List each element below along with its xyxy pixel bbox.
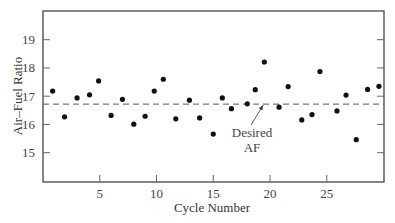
data-points [50,59,382,142]
data-point [220,95,225,100]
data-point [262,59,267,64]
data-point [317,69,322,74]
x-tick-label: 25 [320,186,333,201]
data-point [197,115,202,120]
data-point [152,89,157,94]
x-tick-label: 20 [264,186,277,201]
data-point [187,98,192,103]
data-point [120,97,125,102]
data-point [334,108,339,113]
data-point [211,131,216,136]
data-point [245,101,250,106]
arrowhead-icon [259,105,263,110]
annotation-line-2: AF [244,140,261,155]
data-point [87,92,92,97]
air-fuel-ratio-chart: 1516171819 510152025 Desired AF Cycle Nu… [0,0,395,223]
x-axis-label: Cycle Number [174,200,251,215]
desired-af-annotation: Desired AF [232,105,273,155]
data-point [309,112,314,117]
data-point [50,89,55,94]
data-point [173,116,178,121]
plot-frame [43,11,384,182]
data-point [109,113,114,118]
data-point [365,87,370,92]
data-point [299,117,304,122]
y-axis-label: Air–Fuel Ratio [10,57,25,135]
y-tick-label: 15 [22,145,35,160]
data-point [96,78,101,83]
data-point [229,106,234,111]
data-point [286,84,291,89]
data-point [62,114,67,119]
data-point [376,84,381,89]
data-point [143,114,148,119]
data-point [253,87,258,92]
x-tick-label: 10 [150,186,163,201]
y-tick-label: 19 [22,32,35,47]
data-point [74,95,79,100]
data-point [343,92,348,97]
x-axis-ticks: 510152025 [97,175,334,201]
plot-border [43,11,384,182]
data-point [276,105,281,110]
annotation-line-1: Desired [232,125,273,140]
data-point [161,77,166,82]
x-tick-label: 15 [207,186,220,201]
data-point [131,122,136,127]
data-point [354,137,359,142]
x-tick-label: 5 [97,186,104,201]
